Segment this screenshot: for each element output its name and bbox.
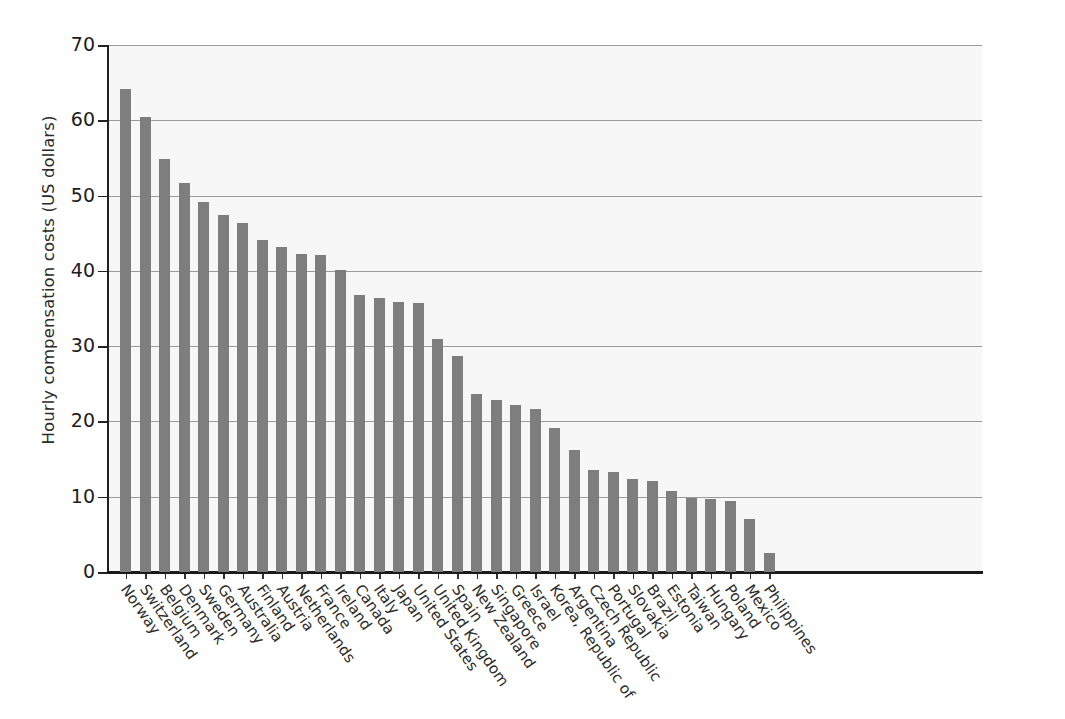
bar xyxy=(647,481,658,572)
x-tick-mark xyxy=(165,574,167,579)
x-tick-mark xyxy=(613,574,615,579)
x-axis-category-label: Spain xyxy=(449,582,485,625)
x-axis-category-label: United States xyxy=(410,582,481,674)
bar xyxy=(237,223,248,572)
bar xyxy=(218,215,229,572)
x-axis-category-label: United Kingdom xyxy=(429,582,510,689)
x-axis-category-label: Japan xyxy=(390,582,426,625)
y-tick-label: 50 xyxy=(53,186,95,205)
y-tick-label: 20 xyxy=(53,411,95,430)
x-axis-category-label: Singapore xyxy=(488,582,544,653)
x-axis-category-label: Sweden xyxy=(195,582,241,639)
bar xyxy=(413,303,424,572)
x-axis-category-label: Hungary xyxy=(702,582,751,643)
x-axis-category-label: Switzerland xyxy=(137,582,199,662)
x-axis-category-label: Slovakia xyxy=(624,582,672,642)
bar xyxy=(471,394,482,572)
bar xyxy=(491,400,502,572)
bar xyxy=(764,553,775,572)
x-axis-category-label: Netherlands xyxy=(293,582,358,666)
bar xyxy=(257,240,268,572)
x-axis-category-label: Belgium xyxy=(156,582,204,641)
x-tick-mark xyxy=(145,574,147,579)
bar-chart-figure: Hourly compensation costs (US dollars) 0… xyxy=(0,0,1065,719)
bar xyxy=(452,356,463,572)
y-tick-label: 0 xyxy=(53,562,95,581)
bar xyxy=(354,295,365,572)
y-tick-label: 60 xyxy=(53,110,95,129)
bar xyxy=(510,405,521,572)
x-axis-category-label: Taiwan xyxy=(683,582,725,632)
y-tick-mark xyxy=(98,346,107,348)
x-tick-mark xyxy=(633,574,635,579)
x-axis-category-label: New Zealand xyxy=(468,582,537,671)
x-tick-mark xyxy=(535,574,537,579)
y-tick-mark xyxy=(98,421,107,423)
x-tick-mark xyxy=(691,574,693,579)
y-tick-mark xyxy=(98,45,107,47)
x-tick-mark xyxy=(672,574,674,579)
bar xyxy=(725,501,736,572)
x-tick-mark xyxy=(516,574,518,579)
x-axis-category-label: Australia xyxy=(234,582,284,645)
x-tick-mark xyxy=(184,574,186,579)
x-axis-category-label: Greece xyxy=(507,582,550,634)
x-axis-category-label: Germany xyxy=(215,582,267,647)
bar xyxy=(393,302,404,572)
x-tick-mark xyxy=(769,574,771,579)
bar xyxy=(432,339,443,572)
x-tick-mark xyxy=(360,574,362,579)
x-axis-category-label: Ireland xyxy=(332,582,374,633)
x-tick-mark xyxy=(711,574,713,579)
x-axis-category-label: Brazil xyxy=(644,582,680,625)
y-tick-label: 10 xyxy=(53,487,95,506)
x-tick-mark xyxy=(438,574,440,579)
bar xyxy=(569,450,580,572)
y-tick-label: 30 xyxy=(53,336,95,355)
x-tick-mark xyxy=(340,574,342,579)
bar xyxy=(120,89,131,572)
x-axis-category-label: Norway xyxy=(117,582,162,637)
bar xyxy=(549,428,560,572)
bar xyxy=(744,519,755,572)
x-axis-category-label: Portugal xyxy=(605,582,653,641)
x-axis-category-label: Israel xyxy=(527,582,563,624)
bar xyxy=(627,479,638,572)
x-tick-mark xyxy=(574,574,576,579)
bar xyxy=(296,254,307,572)
y-tick-mark xyxy=(98,497,107,499)
bar-series xyxy=(108,45,982,572)
bar xyxy=(374,298,385,572)
x-axis-category-label: Philippines xyxy=(761,582,820,657)
x-tick-mark xyxy=(262,574,264,579)
bar xyxy=(686,498,697,572)
x-tick-mark xyxy=(223,574,225,579)
x-axis-category-label: Estonia xyxy=(663,582,707,636)
x-axis-category-label: Argentina xyxy=(566,582,620,651)
x-tick-mark xyxy=(594,574,596,579)
x-tick-mark xyxy=(418,574,420,579)
x-tick-mark xyxy=(379,574,381,579)
bar xyxy=(315,255,326,572)
x-tick-mark xyxy=(457,574,459,579)
x-tick-mark xyxy=(282,574,284,579)
x-axis-category-label: Italy xyxy=(371,582,402,617)
bar xyxy=(140,117,151,572)
bar xyxy=(608,472,619,572)
y-tick-mark xyxy=(98,120,107,122)
x-tick-mark xyxy=(730,574,732,579)
bar xyxy=(335,270,346,572)
x-tick-mark xyxy=(555,574,557,579)
x-axis-category-label: Finland xyxy=(254,582,297,635)
bar xyxy=(198,202,209,572)
x-axis-category-label: Poland xyxy=(722,582,763,632)
bar xyxy=(530,409,541,572)
bar xyxy=(588,470,599,572)
y-tick-mark xyxy=(98,572,107,574)
y-tick-label: 70 xyxy=(53,35,95,54)
x-tick-mark xyxy=(750,574,752,579)
x-tick-mark xyxy=(399,574,401,579)
x-axis-category-label: Korea, Republic of xyxy=(546,582,636,702)
x-tick-mark xyxy=(652,574,654,579)
x-axis-category-label: Austria xyxy=(273,582,316,634)
